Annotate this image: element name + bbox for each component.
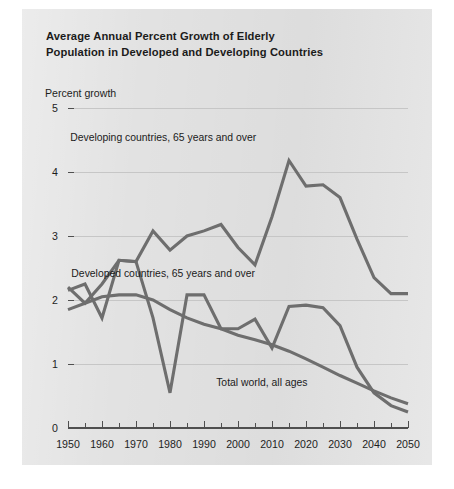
y-tick-label-4: 4 bbox=[52, 166, 58, 178]
x-tick-label-2040: 2040 bbox=[362, 438, 386, 450]
x-tick-label-1970: 1970 bbox=[124, 438, 148, 450]
x-tick-label-1950: 1950 bbox=[56, 438, 80, 450]
chart-svg: 012345 195019601970198019902000201020202… bbox=[0, 0, 454, 489]
x-tick-label-1990: 1990 bbox=[192, 438, 216, 450]
y-tick-label-5: 5 bbox=[52, 102, 58, 114]
series-annotation-2: Total world, all ages bbox=[216, 377, 307, 388]
y-tick-label-3: 3 bbox=[52, 230, 58, 242]
x-tick-label-2010: 2010 bbox=[260, 438, 284, 450]
x-tick-label-2020: 2020 bbox=[294, 438, 318, 450]
data-lines-group bbox=[68, 160, 408, 412]
x-tick-label-2030: 2030 bbox=[328, 438, 352, 450]
x-tick-labels-group: 1950196019701980199020002010202020302040… bbox=[56, 438, 420, 450]
plot-area: 012345 195019601970198019902000201020202… bbox=[0, 0, 454, 489]
x-tick-label-2000: 2000 bbox=[226, 438, 250, 450]
x-tick-label-2050: 2050 bbox=[396, 438, 420, 450]
y-tick-labels-group: 012345 bbox=[52, 102, 58, 434]
y-tick-label-1: 1 bbox=[52, 358, 58, 370]
series-annotation-1: Developed countries, 65 years and over bbox=[71, 268, 255, 279]
x-tick-label-1980: 1980 bbox=[158, 438, 182, 450]
x-tick-label-1960: 1960 bbox=[90, 438, 114, 450]
y-tick-label-2: 2 bbox=[52, 294, 58, 306]
series-annotation-0: Developing countries, 65 years and over bbox=[70, 132, 257, 143]
y-tick-label-0: 0 bbox=[52, 422, 58, 434]
